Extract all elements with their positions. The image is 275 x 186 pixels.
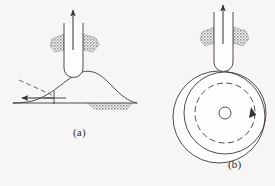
left-flash-wedge — [50, 34, 64, 52]
left-flash-wedge — [200, 27, 214, 46]
panel-a-caption: (a) — [73, 126, 86, 138]
right-flash-wedge — [83, 34, 99, 52]
leader-line — [19, 80, 52, 95]
hatched-subsurface-zone — [86, 103, 133, 110]
panel-b-caption: (b) — [228, 158, 241, 170]
panel-b — [173, 5, 266, 163]
right-flash-wedge — [233, 27, 249, 46]
center-hole-circle — [219, 107, 231, 119]
panel-a — [13, 10, 137, 110]
figure-container: (a) (b) — [0, 0, 275, 186]
